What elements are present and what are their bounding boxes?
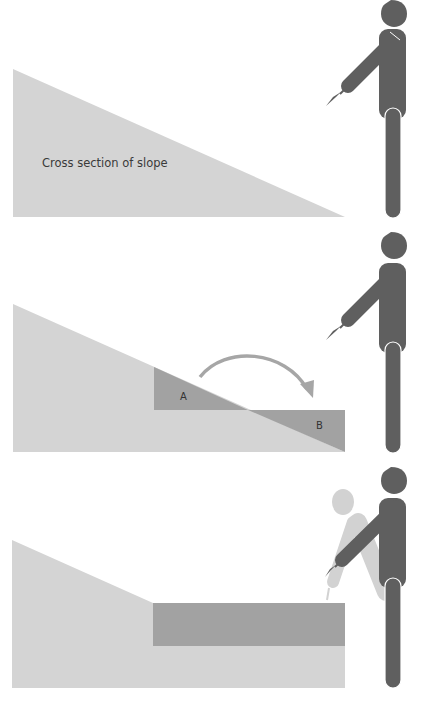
slope-cross-section <box>13 69 345 217</box>
person-icon <box>326 0 407 218</box>
panel-original-slope <box>13 0 407 218</box>
terrace-fill-layer <box>153 603 345 646</box>
panel-cut-and-fill <box>13 232 407 453</box>
fill-label-b: B <box>316 420 323 431</box>
panel-terraced-result <box>12 467 407 688</box>
slope-diagram <box>0 0 424 711</box>
slope-caption: Cross section of slope <box>42 156 168 170</box>
cut-label-a: A <box>180 391 187 402</box>
move-arrow-icon <box>200 356 307 389</box>
